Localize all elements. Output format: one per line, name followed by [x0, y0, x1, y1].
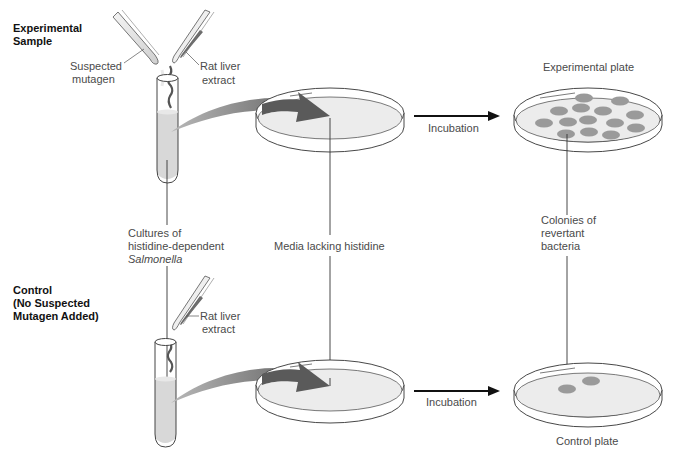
control-heading-line1: Control — [13, 284, 52, 296]
rat-liver-pipette-icon — [173, 10, 215, 63]
rat-liver-label-line2: extract — [202, 74, 235, 86]
control-rat-liver-label-line1: Rat liver — [200, 310, 241, 322]
experimental-heading-line2: Sample — [13, 35, 52, 47]
reagent-drip — [168, 66, 172, 108]
rat-liver-leader — [186, 52, 199, 65]
control-heading-line3: Mutagen Added) — [13, 310, 99, 322]
control-section: Control (No Suspected Mutagen Added) Rat… — [13, 256, 662, 447]
cultures-label-line1: Cultures of — [128, 227, 182, 239]
colonies-label-line2: revertant — [541, 227, 584, 239]
ames-test-diagram: Experimental Sample Suspected mutagen Ra… — [0, 0, 674, 468]
incubation-label: Incubation — [428, 122, 479, 134]
suspected-mutagen-label-line1: Suspected — [70, 60, 122, 72]
control-plate-label: Control plate — [556, 435, 618, 447]
rat-liver-label-line1: Rat liver — [200, 60, 241, 72]
control-heading-line2: (No Suspected — [13, 297, 90, 309]
incubation-arrowhead — [488, 111, 500, 121]
suspected-mutagen-pipette-icon — [113, 10, 159, 64]
control-incubation-label: Incubation — [426, 396, 477, 408]
colonies-label-line1: Colonies of — [541, 214, 597, 226]
experimental-plate-label: Experimental plate — [543, 61, 634, 73]
control-rat-liver-label-line2: extract — [202, 323, 235, 335]
suspected-mutagen-leader — [124, 49, 144, 63]
control-incubation-arrowhead — [488, 386, 500, 396]
cultures-label-line2: histidine-dependent — [128, 240, 224, 252]
cultures-label-line3: Salmonella — [128, 253, 182, 265]
experimental-heading-line1: Experimental — [13, 22, 82, 34]
control-media-plate-icon — [256, 360, 404, 423]
control-reagent-drip — [168, 342, 172, 372]
experimental-test-tube-icon — [157, 75, 178, 184]
control-test-tube-icon — [155, 339, 176, 448]
experimental-section: Experimental Sample Suspected mutagen Ra… — [13, 10, 662, 235]
shared-labels: Cultures of histidine-dependent Salmonel… — [128, 214, 597, 265]
control-plate-icon — [514, 363, 662, 427]
experimental-plate-icon — [514, 88, 662, 152]
colonies-label-line3: bacteria — [541, 240, 581, 252]
media-label: Media lacking histidine — [274, 240, 385, 252]
suspected-mutagen-label-line2: mutagen — [72, 73, 115, 85]
